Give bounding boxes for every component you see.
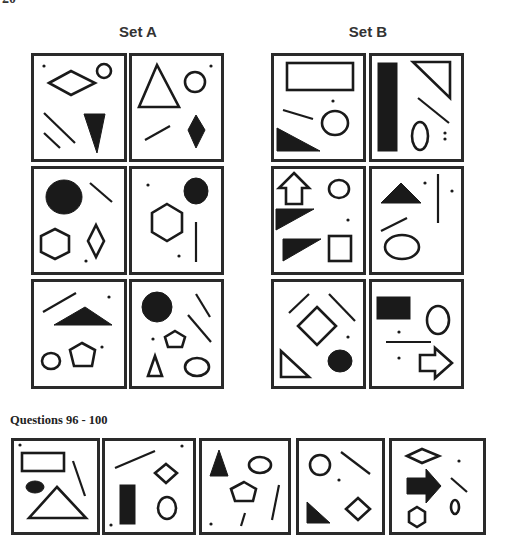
panel-figure bbox=[299, 441, 382, 532]
line-shape bbox=[90, 183, 112, 202]
set-b-panel-b6 bbox=[369, 279, 464, 389]
line-shape bbox=[44, 133, 60, 148]
ellipse-shape bbox=[385, 235, 419, 259]
dot-shape bbox=[177, 254, 180, 257]
polygon-shape bbox=[88, 225, 104, 257]
filled-rectangle-shape bbox=[378, 63, 397, 151]
ellipse-shape bbox=[329, 180, 349, 198]
filled-polygon-shape bbox=[407, 469, 441, 503]
dot-shape bbox=[397, 330, 400, 333]
dot-shape bbox=[450, 189, 453, 192]
panel-figure bbox=[372, 169, 461, 272]
line-shape bbox=[241, 513, 245, 526]
dot-shape bbox=[457, 459, 460, 462]
dot-shape bbox=[423, 181, 426, 184]
dot-shape bbox=[331, 99, 334, 102]
filled-ellipse-shape bbox=[184, 178, 208, 204]
dot-shape bbox=[146, 183, 149, 186]
filled-polygon-shape bbox=[210, 450, 228, 476]
rectangle-shape bbox=[329, 236, 351, 261]
panel-figure bbox=[372, 56, 461, 159]
dot-shape bbox=[397, 356, 400, 359]
panel-figure bbox=[34, 282, 124, 386]
dot-shape bbox=[209, 522, 212, 525]
dot-shape bbox=[209, 64, 212, 67]
polygon-shape bbox=[413, 62, 450, 98]
polygon-shape bbox=[165, 331, 185, 347]
polygon-shape bbox=[148, 356, 162, 376]
line-shape bbox=[272, 485, 279, 520]
ellipse-shape bbox=[451, 500, 459, 514]
filled-polygon-shape bbox=[283, 239, 321, 261]
panel-figure bbox=[105, 441, 193, 532]
dot-shape bbox=[42, 64, 45, 67]
set-a-panel-a2 bbox=[129, 53, 224, 162]
question-panel-q100 bbox=[389, 438, 486, 535]
polygon-shape bbox=[139, 65, 179, 107]
set-b-panel-b1 bbox=[271, 53, 366, 162]
filled-polygon-shape bbox=[188, 115, 205, 148]
ellipse-shape bbox=[322, 111, 348, 135]
filled-polygon-shape bbox=[276, 209, 314, 230]
polygon-shape bbox=[281, 351, 309, 377]
panel-figure bbox=[392, 441, 483, 532]
dot-shape bbox=[100, 345, 103, 348]
line-shape bbox=[43, 293, 76, 312]
polygon-shape bbox=[298, 307, 336, 345]
dot-shape bbox=[107, 295, 110, 298]
polygon-shape bbox=[152, 204, 182, 241]
question-panel-q99 bbox=[296, 438, 385, 535]
dot-shape bbox=[109, 523, 112, 526]
rectangle-shape bbox=[22, 453, 64, 471]
polygon-shape bbox=[155, 464, 177, 483]
filled-polygon-shape bbox=[84, 114, 105, 153]
dot-shape bbox=[84, 259, 87, 262]
filled-ellipse-shape bbox=[26, 481, 44, 493]
ellipse-shape bbox=[158, 497, 176, 519]
ellipse-shape bbox=[185, 72, 205, 92]
line-shape bbox=[283, 110, 313, 119]
panel-figure bbox=[14, 441, 97, 532]
set-a-panel-a4 bbox=[129, 166, 224, 275]
panel-figure bbox=[132, 169, 221, 272]
panel-figure bbox=[274, 169, 363, 272]
ellipse-shape bbox=[412, 122, 428, 150]
dot-shape bbox=[18, 443, 21, 446]
dot-shape bbox=[337, 478, 340, 481]
dot-shape bbox=[151, 337, 154, 340]
line-shape bbox=[329, 294, 355, 321]
ellipse-shape bbox=[249, 457, 271, 473]
line-shape bbox=[341, 452, 370, 474]
set-a-panel-a1 bbox=[31, 53, 127, 162]
panel-figure bbox=[372, 282, 461, 386]
ellipse-shape bbox=[42, 353, 60, 369]
line-shape bbox=[418, 98, 449, 123]
panel-figure bbox=[34, 56, 124, 159]
set-a-title: Set A bbox=[78, 23, 198, 40]
set-b-panel-b5 bbox=[271, 279, 366, 389]
polygon-shape bbox=[70, 343, 95, 366]
polygon-shape bbox=[346, 498, 370, 520]
filled-polygon-shape bbox=[277, 128, 320, 151]
line-shape bbox=[145, 126, 170, 140]
line-shape bbox=[381, 218, 407, 231]
ellipse-shape bbox=[427, 306, 449, 334]
questions-label: Questions 96 - 100 bbox=[10, 413, 108, 428]
page-number: 20 bbox=[2, 0, 16, 7]
panel-figure bbox=[202, 441, 288, 532]
dot-shape bbox=[346, 335, 349, 338]
filled-ellipse-shape bbox=[328, 350, 352, 372]
polygon-shape bbox=[407, 449, 439, 463]
line-shape bbox=[451, 478, 467, 492]
question-panel-q98 bbox=[199, 438, 291, 535]
dot-shape bbox=[180, 444, 183, 447]
polygon-shape bbox=[231, 482, 256, 501]
dot-shape bbox=[346, 218, 349, 221]
line-shape bbox=[196, 294, 210, 317]
polygon-shape bbox=[420, 348, 452, 378]
dot-shape bbox=[443, 137, 446, 140]
polygon-shape bbox=[409, 507, 425, 527]
panel-figure bbox=[274, 282, 363, 386]
panel-figure bbox=[132, 56, 221, 159]
panel-figure bbox=[274, 56, 363, 159]
